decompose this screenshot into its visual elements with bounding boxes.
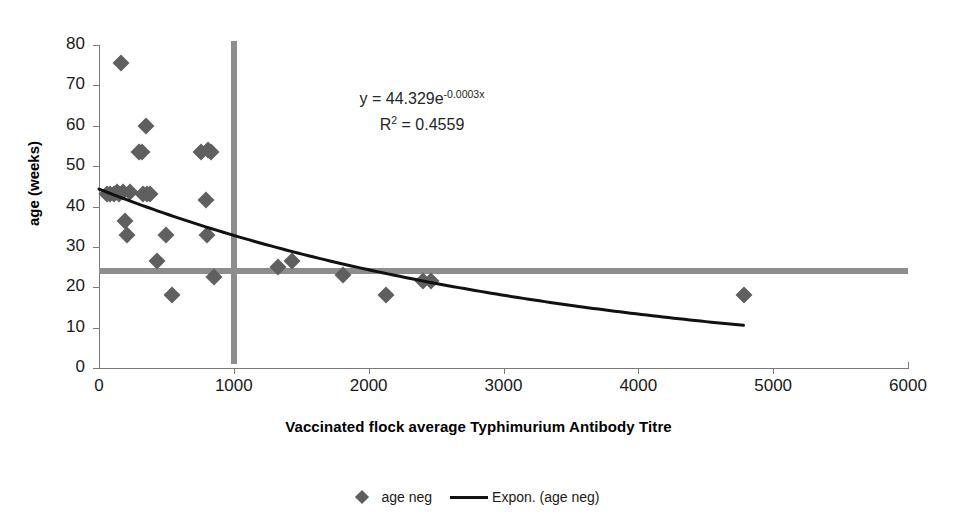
equation-line: y = 44.329e-0.0003x: [307, 86, 537, 112]
legend-item-expon-age-neg: Expon. (age neg): [432, 489, 599, 505]
equation-text: y = 44.329e: [360, 90, 444, 107]
exponential-trendline: [0, 0, 957, 527]
legend-label-expon-age-neg: Expon. (age neg): [492, 489, 599, 505]
line-marker-icon: [450, 496, 488, 499]
legend-label-age-neg: age neg: [381, 489, 432, 505]
equation-exponent: -0.0003x: [444, 88, 485, 100]
y-axis-title: age (weeks): [25, 84, 42, 284]
r-squared-label: R: [380, 116, 392, 133]
legend-item-age-neg: age neg: [357, 489, 432, 505]
r-squared-line: R2 = 0.4559: [307, 112, 537, 138]
chart-canvas: 0100020003000400050006000 01020304050607…: [0, 0, 957, 527]
equation-annotation: y = 44.329e-0.0003x R2 = 0.4559: [307, 86, 537, 138]
r-squared-value: = 0.4559: [397, 116, 464, 133]
chart-legend: age neg Expon. (age neg): [0, 489, 957, 505]
diamond-marker-icon: [355, 490, 369, 504]
x-axis-title: Vaccinated flock average Typhimurium Ant…: [0, 418, 957, 435]
